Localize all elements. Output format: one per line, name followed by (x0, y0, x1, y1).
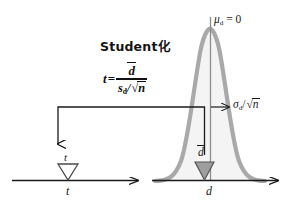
formula-numerator: d (124, 63, 139, 78)
dbar-marker-label: d (198, 146, 204, 159)
formula-lhs: t (103, 72, 107, 85)
t-axis-label: t (66, 185, 69, 197)
studentization-formula: t = d sd/√n (103, 63, 147, 95)
formula-equals: = (108, 72, 115, 85)
formula-denominator: sd/√n (116, 80, 147, 95)
studentization-heading: Student化 (100, 41, 171, 54)
statistics-figure: Student化 t = d sd/√n μd = 0 σd/√n t d t … (0, 0, 286, 206)
mu-label: μd = 0 (214, 14, 241, 27)
mu-value: 0 (236, 13, 242, 25)
t-marker-label: t (64, 152, 67, 163)
formula-fraction: d sd/√n (116, 63, 147, 95)
mu-subscript: d (220, 19, 224, 27)
t-marker-triangle (58, 164, 78, 180)
mu-equals: = (226, 13, 233, 25)
sigma-sqrt: √n (245, 98, 258, 111)
sigma-label: σd/√n (233, 98, 259, 112)
formula-den-sqrt: √n (131, 81, 146, 94)
d-axis-label: d (206, 185, 212, 197)
